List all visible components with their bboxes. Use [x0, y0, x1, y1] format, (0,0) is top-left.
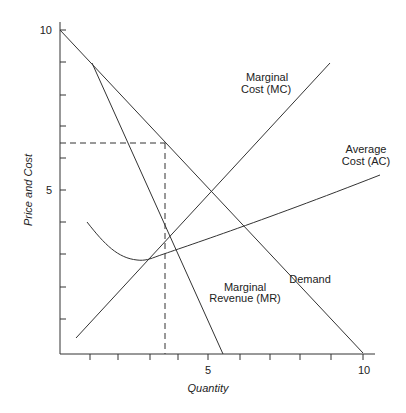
demand-label: Demand: [289, 273, 331, 285]
x-ticks: [90, 354, 363, 360]
y-tick-label-10: 10: [40, 24, 52, 36]
y-ticks: [60, 30, 66, 319]
mc-label-line1: Marginal: [246, 71, 288, 83]
x-axis-label: Quantity: [188, 382, 230, 394]
marginal-revenue-curve: [92, 63, 223, 354]
ac-label-line2: Cost (AC): [342, 155, 390, 167]
marginal-cost-curve: [76, 63, 330, 338]
mc-label-line2: Cost (MC): [241, 83, 291, 95]
ac-label-line1: Average: [346, 143, 387, 155]
y-axis-label: Price and Cost: [22, 153, 34, 226]
x-tick-label-10: 10: [358, 364, 370, 376]
x-tick-label-5: 5: [205, 364, 211, 376]
economics-chart: 10 5 5 10 Quantity Price and Cost Margin…: [0, 0, 406, 413]
average-cost-curve: [87, 175, 380, 260]
y-tick-label-5: 5: [46, 184, 52, 196]
mr-label-line2: Revenue (MR): [209, 292, 281, 304]
